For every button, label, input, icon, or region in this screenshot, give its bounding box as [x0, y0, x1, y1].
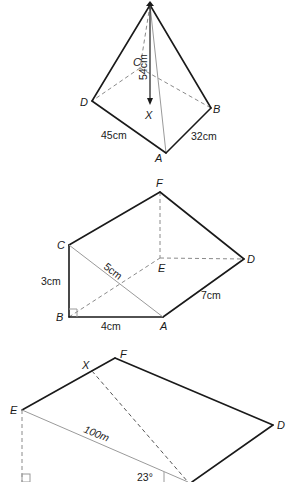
ea-measure: 100m	[82, 423, 111, 444]
f-to-d-edge	[115, 358, 273, 425]
a-to-d-edge	[163, 259, 244, 317]
label-a: A	[159, 320, 167, 332]
label-d: D	[277, 419, 285, 431]
apex-marker-icon	[146, 1, 154, 6]
pyramid-figure: C D X B A 54cm 45cm 32cm	[80, 1, 220, 164]
label-f: F	[120, 348, 128, 360]
label-d: D	[80, 96, 88, 108]
d-to-a-edge	[92, 101, 166, 153]
label-f: F	[156, 177, 164, 189]
apex-to-d-edge	[92, 5, 150, 101]
label-d: D	[247, 253, 255, 265]
label-e: E	[10, 404, 18, 416]
e-to-a-line	[22, 410, 188, 482]
cb-measure: 3cm	[41, 275, 61, 287]
label-c: C	[57, 239, 65, 251]
label-b: B	[56, 311, 63, 323]
ba-measure: 4cm	[101, 320, 121, 332]
ad-measure: 7cm	[201, 289, 221, 301]
c-to-f-edge	[69, 192, 160, 245]
angle-measure: 23°	[137, 471, 153, 482]
e-to-d-edge	[160, 258, 244, 259]
label-b: B	[213, 103, 220, 115]
d-to-a-edge	[192, 425, 273, 482]
label-x: X	[144, 109, 153, 121]
da-measure: 45cm	[101, 129, 127, 141]
x-to-a-line	[92, 371, 188, 482]
label-e: E	[158, 262, 166, 274]
prism-figure: F C E D B A 5cm 3cm 4cm 7cm	[41, 177, 255, 332]
height-measure: 54cm	[137, 54, 149, 80]
height-arrow-icon	[147, 98, 153, 105]
label-x: X	[81, 359, 90, 371]
right-angle-icon	[22, 474, 30, 482]
c-to-d-edge	[92, 68, 140, 101]
ab-measure: 32cm	[191, 130, 217, 142]
slope-figure: X F E D 100m 23°	[10, 348, 285, 482]
label-a: A	[154, 152, 162, 164]
c-to-a-edge	[69, 245, 163, 317]
e-to-f-edge	[22, 358, 115, 410]
f-to-d-edge	[160, 192, 244, 259]
